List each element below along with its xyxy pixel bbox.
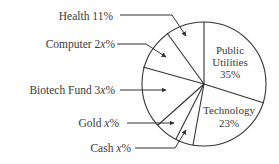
svg-text:Public: Public — [216, 44, 244, 56]
svg-text:Utilities: Utilities — [212, 56, 247, 68]
svg-text:Gold x%: Gold x% — [78, 117, 119, 129]
svg-text:Biotech Fund 3x%: Biotech Fund 3x% — [29, 84, 115, 96]
callout-computer: Computer 2x% — [46, 38, 166, 57]
svg-text:35%: 35% — [220, 68, 240, 80]
svg-text:23%: 23% — [219, 117, 239, 129]
svg-text:Health 11%: Health 11% — [59, 10, 114, 22]
svg-text:Computer 2x%: Computer 2x% — [46, 38, 116, 51]
svg-text:Technology: Technology — [203, 104, 255, 116]
pie-chart: Public Utilities 35% Technology 23% Heal… — [0, 0, 279, 164]
svg-text:Cash x%: Cash x% — [90, 142, 131, 154]
pie — [142, 22, 266, 146]
callout-health: Health 11% — [59, 10, 186, 36]
